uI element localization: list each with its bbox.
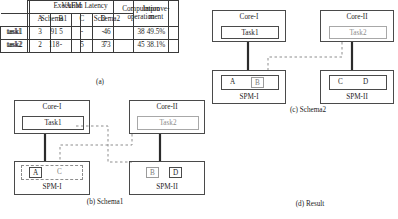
schema1-spm-left-cell-c: C [53,167,66,178]
schema1-core-right-title: Core-II [130,103,204,111]
schema2-core-right-task: Task2 [329,26,387,39]
panel-schema1: Core-I Task1 Core-II Task2 A C SPM-I B D… [0,98,205,219]
row-label-task2: task2 [1,40,28,53]
schema2-core-right-title: Core-II [321,13,393,21]
table-row: task2 118 73 38.1% [1,40,179,53]
caption-c: (c) Schema2 [253,106,363,114]
cell-task2-improvement: 38.1% [134,40,179,53]
cell-task2-schema2: 73 [81,40,134,53]
schema2-spm-right-title: SPM-II [321,93,393,101]
schema1-core-right: Core-II Task2 [129,100,205,134]
schema1-spm-left: A C SPM-I [14,161,90,195]
caption-a: (a) [70,78,130,86]
cell-task1-schema2: 46 [81,27,134,40]
schema2-spm-right-cell-d: D [359,77,372,88]
schema2-core-left: Core-I Task1 [212,10,286,42]
schema1-core-left-title: Core-I [15,103,89,111]
schema1-core-right-task: Task2 [137,116,199,130]
schema1-core-left: Core-I Task1 [14,100,90,134]
improvement-header-line2: ment [134,14,178,21]
table-row-header-group: Execution Latency Improve- ment [1,1,179,14]
column-header-schema1: Schema1 [28,14,81,27]
dashed-link-task2-to-c [60,134,132,162]
cell-task1-schema1: 91 [28,27,81,40]
schema2-spm-right-cell-c: C [334,77,347,88]
schema2-core-left-title: Core-I [213,13,285,21]
schema2-spm-left-cell-b: B [251,77,264,88]
row-label-task1: task1 [1,27,28,40]
schema1-spm-right: B D SPM-II [129,161,205,195]
result-table: Execution Latency Improve- ment Schema1 … [0,0,179,53]
schema1-spm-right-cell-b: B [146,167,159,178]
schema1-core-left-task: Task1 [22,116,84,130]
corner-cell-2 [1,14,28,27]
schema1-spm-right-cell-d: D [169,167,182,178]
execution-latency-header: Execution Latency [28,1,134,14]
column-header-schema2: Schema2 [81,14,134,27]
improvement-header: Improve- ment [134,1,179,27]
schema2-core-right: Core-II Task2 [320,10,394,42]
cell-task1-improvement: 49.5% [134,27,179,40]
schema1-spm-left-title: SPM-I [15,183,89,191]
schema2-spm-left: A B SPM-I [212,70,286,104]
corner-cell [1,1,28,14]
cell-task2-schema1: 118 [28,40,81,53]
table-row: task1 91 46 49.5% [1,27,179,40]
schema2-spm-left-title: SPM-I [213,93,285,101]
dashed-link-task2-to-b [268,42,342,71]
caption-d: (d) Result [255,200,365,208]
schema2-spm-right: C D SPM-II [320,70,394,104]
panel-schema2: Core-I Task1 Core-II Task2 A B SPM-I C D… [210,2,398,120]
schema1-spm-left-cell-a: A [29,167,42,178]
panel-result-table: Execution Latency Improve- ment Schema1 … [0,0,179,53]
schema2-spm-left-cell-a: A [226,77,239,88]
schema2-core-left-task: Task1 [221,26,279,39]
caption-b: (b) Schema1 [50,198,160,206]
schema1-spm-right-title: SPM-II [130,183,204,191]
